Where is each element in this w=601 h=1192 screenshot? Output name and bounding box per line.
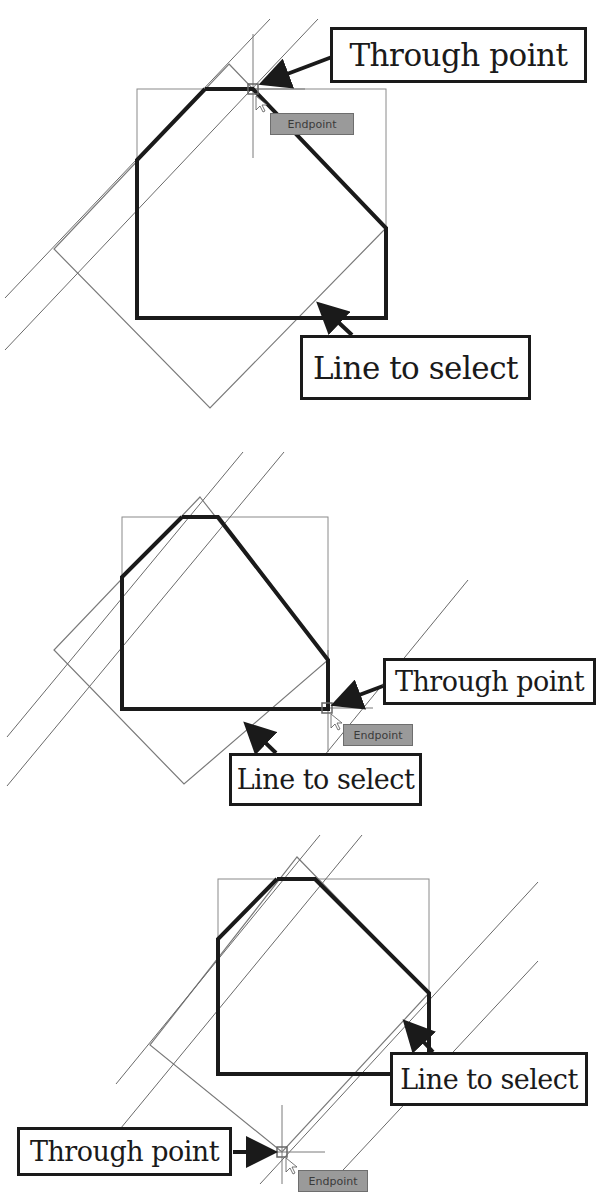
through-point-callout-1: Through point (330, 27, 587, 83)
line-to-select-callout-3: Line to select (390, 1052, 588, 1106)
endpoint-snap-tooltip-1: Endpoint (270, 113, 354, 135)
line-to-select-callout-2: Line to select (229, 753, 422, 806)
endpoint-snap-tooltip-2: Endpoint (343, 724, 413, 746)
through-point-callout-2: Through point (383, 658, 596, 705)
endpoint-snap-tooltip-3: Endpoint (298, 1170, 368, 1192)
cursor-arrow-icon (331, 714, 342, 730)
through-point-callout-3: Through point (17, 1127, 232, 1176)
line-to-select-callout-1: Line to select (300, 335, 531, 400)
cursor-arrow-icon (286, 1158, 297, 1174)
panel-2-drawing (7, 452, 468, 800)
